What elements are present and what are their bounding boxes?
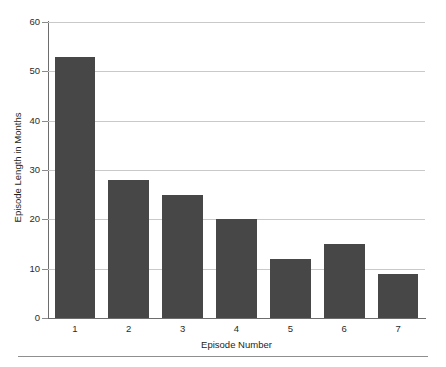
y-axis-tick-mark [42,170,48,171]
x-axis-line [48,318,426,319]
x-axis-tick-label: 5 [263,323,317,334]
bar [270,259,311,318]
bar [55,57,96,318]
x-axis-tick-label-group: 1234567 [48,323,425,339]
bar [378,274,419,318]
x-axis-tick-label: 4 [210,323,264,334]
bar [162,195,203,318]
y-axis-tick-label: 60 [16,17,40,27]
bar [324,244,365,318]
y-axis-title: Episode Length in Months [12,88,23,248]
y-axis-tick-label: 0 [16,313,40,323]
bar-series [48,22,425,318]
x-axis-tick-label: 1 [48,323,102,334]
y-axis-tick-mark [42,71,48,72]
y-axis-tick-mark [42,318,48,319]
bar [216,219,257,318]
y-axis-tick-label: 50 [16,66,40,76]
x-axis-tick-label: 3 [156,323,210,334]
x-axis-title: Episode Number [48,339,425,350]
bar-chart-figure: 0102030405060 1234567 Episode Number Epi… [0,0,446,367]
y-axis-tick-mark [42,219,48,220]
y-axis-tick-mark [42,269,48,270]
x-axis-tick-label: 2 [102,323,156,334]
y-axis-tick-label: 10 [16,264,40,274]
x-axis-tick-label: 7 [371,323,425,334]
bar [108,180,149,318]
x-axis-tick-label: 6 [317,323,371,334]
y-axis-tick-mark [42,121,48,122]
y-axis-tick-mark [42,22,48,23]
bottom-horizontal-rule [18,356,428,357]
